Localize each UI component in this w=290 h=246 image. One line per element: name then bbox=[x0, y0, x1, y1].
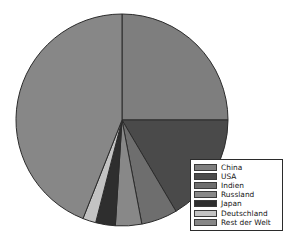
legend-label-deutschland: Deutschland bbox=[221, 209, 268, 218]
legend-swatch-deutschland bbox=[194, 210, 217, 217]
legend-swatch-russland bbox=[194, 191, 217, 198]
legend-item-russland: Russland bbox=[194, 190, 279, 199]
legend-label-indien: Indien bbox=[221, 181, 244, 190]
legend-label-china: China bbox=[221, 163, 242, 172]
chart-legend: China USA Indien Russland Japan Deutschl… bbox=[190, 159, 283, 231]
pie-slice-china bbox=[122, 14, 228, 120]
legend-item-indien: Indien bbox=[194, 181, 279, 190]
legend-swatch-japan bbox=[194, 200, 217, 207]
legend-label-russland: Russland bbox=[221, 190, 254, 199]
legend-item-china: China bbox=[194, 163, 279, 172]
legend-item-rest-der-welt: Rest der Welt bbox=[194, 218, 279, 227]
legend-label-japan: Japan bbox=[221, 199, 242, 208]
legend-item-deutschland: Deutschland bbox=[194, 208, 279, 217]
pie-chart-figure: China USA Indien Russland Japan Deutschl… bbox=[0, 0, 290, 246]
legend-item-japan: Japan bbox=[194, 199, 279, 208]
legend-swatch-rest-der-welt bbox=[194, 219, 217, 226]
legend-swatch-china bbox=[194, 164, 217, 171]
legend-swatch-indien bbox=[194, 182, 217, 189]
legend-label-usa: USA bbox=[221, 172, 236, 181]
legend-item-usa: USA bbox=[194, 172, 279, 181]
legend-swatch-usa bbox=[194, 173, 217, 180]
legend-label-rest-der-welt: Rest der Welt bbox=[221, 218, 271, 227]
